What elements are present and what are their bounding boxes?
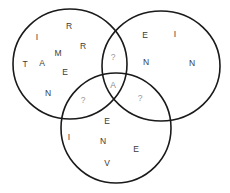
letter-left: R	[66, 21, 72, 31]
letter-right: N	[189, 58, 195, 68]
venn-diagram: R I R M T A E N E I N N E I N E V ? ? ? …	[0, 0, 230, 193]
letter-right: E	[142, 30, 148, 40]
letter-all-three: A	[110, 80, 116, 90]
letter-left: I	[36, 32, 38, 42]
letter-bottom: V	[104, 158, 110, 168]
letter-bottom: I	[68, 132, 70, 142]
letter-right: I	[174, 29, 176, 39]
letter-left: E	[62, 67, 68, 77]
circle-bottom	[61, 73, 171, 183]
letter-bottom: N	[100, 136, 106, 146]
letter-left: N	[45, 88, 51, 98]
unknown-left-right: ?	[111, 52, 116, 62]
unknown-left-bottom: ?	[81, 95, 86, 105]
letter-right: N	[143, 57, 149, 67]
letter-bottom: E	[133, 144, 139, 154]
letter-left: T	[22, 59, 27, 69]
letter-left: R	[80, 41, 86, 51]
circle-right	[102, 11, 220, 121]
letter-left: A	[39, 58, 45, 68]
unknown-right-bottom: ?	[138, 93, 143, 103]
letter-bottom: E	[104, 116, 110, 126]
letter-left: M	[54, 48, 61, 58]
